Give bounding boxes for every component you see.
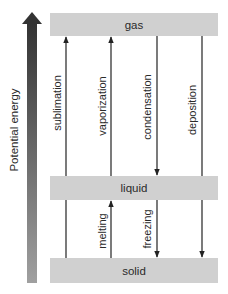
potential-energy-label: Potential energy [8,88,20,171]
freezing-label: freezing [141,209,153,248]
liquid-label: liquid [121,182,148,194]
vaporization-label: vaporization [96,76,108,135]
gas-label: gas [125,19,144,31]
sublimation-label: sublimation [51,75,63,131]
liquid-box: liquid [50,176,218,200]
condensation-label: condensation [141,74,153,139]
solid-box: solid [50,258,218,283]
deposition-label: deposition [186,85,198,135]
gas-box: gas [50,13,218,36]
potential-energy-arrow-icon [22,12,42,283]
melting-label: melting [96,213,108,248]
solid-label: solid [122,265,146,277]
diagram-arrows [0,0,228,294]
